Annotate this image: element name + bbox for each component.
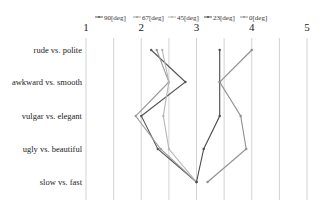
data-point (135, 115, 137, 117)
data-point (161, 49, 163, 51)
category-label: awkward vs. smooth (12, 77, 83, 87)
data-point (168, 81, 170, 83)
data-point (219, 81, 221, 83)
data-point (184, 81, 186, 83)
data-point (219, 115, 221, 117)
legend-label: 90[deg] (104, 14, 126, 22)
data-point (150, 49, 152, 51)
data-point (240, 115, 242, 117)
legend-label: 67[deg] (142, 14, 164, 22)
data-point (206, 181, 208, 183)
data-point (245, 148, 247, 150)
profile-chart: 12345rude vs. politeawkward vs. smoothvu… (0, 0, 329, 210)
x-tick-label: 2 (139, 21, 145, 33)
data-point (159, 148, 161, 150)
series-line-23deg (197, 50, 220, 182)
x-tick-label: 3 (194, 21, 200, 33)
data-point (156, 49, 158, 51)
series-line-45deg (162, 50, 196, 182)
series-line-0deg (208, 50, 252, 182)
data-point (195, 181, 197, 183)
category-label: rude vs. polite (34, 45, 83, 55)
data-point (202, 148, 204, 150)
data-point (251, 49, 253, 51)
category-label: slow vs. fast (40, 177, 83, 187)
category-label: ugly vs. beautiful (23, 144, 83, 154)
data-point (157, 148, 159, 150)
legend-marker (171, 16, 173, 18)
x-tick-label: 1 (83, 21, 89, 33)
x-tick-label: 5 (304, 21, 310, 33)
data-point (140, 115, 142, 117)
x-tick-label: 4 (249, 21, 255, 33)
data-point (162, 115, 164, 117)
legend-marker (243, 16, 245, 18)
legend-label: 0[deg] (249, 14, 267, 22)
data-point (219, 49, 221, 51)
legend-label: 23[deg] (213, 14, 235, 22)
legend-marker (207, 16, 209, 18)
data-point (168, 148, 170, 150)
legend-marker (136, 16, 138, 18)
legend-label: 45[deg] (177, 14, 199, 22)
category-label: vulgar vs. elegant (22, 111, 83, 121)
legend-marker (98, 16, 100, 18)
